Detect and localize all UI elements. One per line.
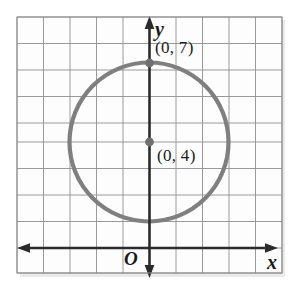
y-axis-label: y [155, 19, 164, 39]
graph-canvas [0, 0, 295, 290]
point-label-center: (0, 4) [157, 147, 196, 164]
point-label-top: (0, 7) [155, 39, 194, 56]
origin-label: O [124, 249, 138, 268]
x-axis-label: x [267, 252, 277, 272]
point-marker-top [145, 59, 154, 68]
graph-figure: (0, 7) (0, 4) y x O [0, 0, 295, 290]
point-marker-center [145, 138, 154, 147]
